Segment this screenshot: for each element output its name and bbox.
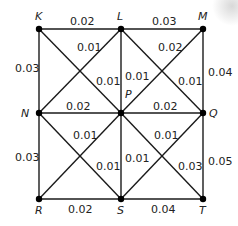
vertex-label-t: T bbox=[199, 204, 207, 217]
vertex-label-r: R bbox=[35, 204, 43, 217]
edge-weight-r-s: 0.02 bbox=[68, 203, 93, 216]
edge-weight-k-p: 0.01 bbox=[96, 75, 121, 88]
vertex-label-n: N bbox=[21, 107, 29, 120]
vertex-t bbox=[200, 196, 206, 202]
vertex-p bbox=[118, 110, 124, 116]
vertex-l bbox=[118, 26, 124, 32]
edge-weight-n-s: 0.01 bbox=[96, 160, 121, 173]
edge-weight-l-m: 0.03 bbox=[152, 15, 177, 28]
vertex-m bbox=[200, 26, 206, 32]
vertex-n bbox=[36, 110, 42, 116]
edge-weight-p-t: 0.03 bbox=[178, 160, 203, 173]
vertex-r bbox=[36, 196, 42, 202]
vertex-label-p: P bbox=[125, 88, 132, 101]
vertex-label-q: Q bbox=[209, 107, 218, 120]
vertex-k bbox=[36, 26, 42, 32]
vertex-label-l: L bbox=[117, 10, 123, 23]
edge-weight-p-s: 0.01 bbox=[125, 152, 150, 165]
edge-weight-l-q: 0.01 bbox=[178, 75, 203, 88]
weighted-graph-diagram: 0.020.030.030.040.010.020.020.010.010.01… bbox=[0, 0, 238, 226]
edge-weight-q-t: 0.05 bbox=[208, 155, 233, 168]
edge-weight-q-s: 0.01 bbox=[154, 129, 179, 142]
edge-weight-k-l: 0.02 bbox=[70, 15, 95, 28]
vertex-q bbox=[200, 110, 206, 116]
edge-weight-l-p: 0.01 bbox=[125, 70, 150, 83]
edge-weight-l-n: 0.01 bbox=[77, 41, 102, 54]
edge-weight-p-q: 0.02 bbox=[153, 100, 178, 113]
edge-weight-m-p: 0.02 bbox=[158, 41, 183, 54]
edge-weight-s-t: 0.04 bbox=[151, 203, 176, 216]
edge-weight-m-q: 0.04 bbox=[208, 66, 233, 79]
edge-weight-n-p: 0.02 bbox=[66, 100, 91, 113]
edge-weight-k-n: 0.03 bbox=[15, 62, 40, 75]
vertex-label-k: K bbox=[35, 10, 43, 23]
edge-weight-n-r: 0.03 bbox=[15, 151, 40, 164]
vertex-s bbox=[118, 196, 124, 202]
vertex-label-m: M bbox=[198, 10, 208, 23]
edge-weight-p-r: 0.01 bbox=[73, 129, 98, 142]
vertex-label-s: S bbox=[117, 204, 124, 217]
